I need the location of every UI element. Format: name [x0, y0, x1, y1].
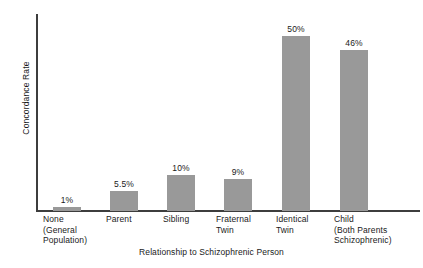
bar-parent[interactable]	[110, 191, 138, 211]
bar-value-parent: 5.5%	[114, 179, 134, 189]
bar-value-identical-twin: 50%	[287, 24, 304, 34]
bar-value-child: 46%	[345, 38, 362, 48]
bar-value-none: 1%	[61, 195, 74, 205]
x-label-none-line-2: (General	[43, 225, 129, 236]
x-label-child-line-1: Child	[334, 214, 420, 225]
x-label-child-line-2: (Both Parents	[334, 225, 420, 236]
bar-value-fraternal-twin: 9%	[232, 167, 245, 177]
bar-group-sibling: 10%	[152, 14, 210, 211]
x-label-child-line-3: Schizophrenic)	[334, 235, 420, 246]
plot-area: 1% 5.5% 10% 9% 50% 46%	[38, 14, 420, 211]
bar-fraternal-twin[interactable]	[224, 179, 252, 211]
x-label-child: Child (Both Parents Schizophrenic)	[334, 214, 420, 246]
bar-none[interactable]	[53, 207, 81, 211]
bar-group-fraternal-twin: 9%	[209, 14, 267, 211]
bar-group-none: 1%	[38, 14, 96, 211]
y-axis-title: Concordance Rate	[21, 28, 31, 168]
bar-value-sibling: 10%	[172, 163, 189, 173]
bar-group-child: 46%	[325, 14, 383, 211]
bar-sibling[interactable]	[167, 175, 195, 211]
bar-chart: Concordance Rate 1% 5.5% 10% 9% 50% 46%	[0, 0, 423, 268]
x-label-none-line-3: Population)	[43, 235, 129, 246]
bar-identical-twin[interactable]	[282, 36, 310, 211]
bar-group-parent: 5.5%	[95, 14, 153, 211]
x-axis-title: Relationship to Schizophrenic Person	[0, 247, 423, 257]
bar-group-identical-twin: 50%	[267, 14, 325, 211]
bar-child[interactable]	[340, 50, 368, 211]
